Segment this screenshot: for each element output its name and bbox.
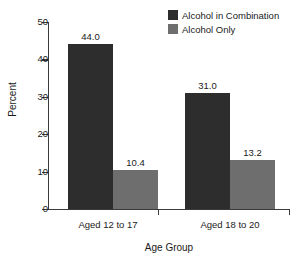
- y-axis-line: [48, 22, 49, 210]
- x-axis-title: Age Group: [48, 242, 290, 253]
- y-tick-label: 30: [14, 91, 48, 102]
- y-axis-title: Percent: [7, 70, 18, 130]
- bar-value-label: 44.0: [68, 31, 113, 42]
- bar-aged-18-to-20-alcohol-only: [230, 160, 275, 209]
- x-category-label-2: Aged 18 to 20: [180, 219, 280, 230]
- y-tick-label: 20: [14, 128, 48, 139]
- chart-legend: Alcohol in Combination Alcohol Only: [168, 9, 279, 35]
- bar-aged-18-to-20-alcohol-in-combination: [185, 93, 230, 209]
- legend-item-alcohol-only: Alcohol Only: [168, 23, 279, 35]
- y-tick-label: 0: [14, 203, 48, 214]
- bar-chart: Alcohol in Combination Alcohol Only 50 4…: [0, 0, 304, 266]
- y-tick-label: 50: [14, 16, 48, 27]
- bar-value-label: 31.0: [185, 80, 230, 91]
- legend-label: Alcohol Only: [182, 24, 235, 35]
- y-tick-label: 40: [14, 53, 48, 64]
- bar-aged-12-to-17-alcohol-in-combination: [68, 44, 113, 209]
- legend-item-alcohol-in-combination: Alcohol in Combination: [168, 9, 279, 21]
- bar-value-label: 13.2: [230, 147, 275, 158]
- legend-label: Alcohol in Combination: [182, 10, 279, 21]
- x-tick-mark: [289, 209, 290, 215]
- x-tick-mark: [158, 209, 159, 215]
- bar-aged-12-to-17-alcohol-only: [113, 170, 158, 209]
- x-category-label-1: Aged 12 to 17: [58, 219, 158, 230]
- legend-swatch-icon: [168, 24, 178, 34]
- bar-value-label: 10.4: [113, 157, 158, 168]
- legend-swatch-icon: [168, 10, 178, 20]
- y-tick-label: 10: [14, 166, 48, 177]
